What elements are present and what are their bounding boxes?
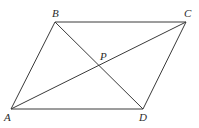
label-p: P xyxy=(99,50,107,62)
label-c: C xyxy=(184,7,192,19)
label-d: D xyxy=(138,111,147,123)
diagonal-bd xyxy=(55,22,143,109)
side-ab xyxy=(11,22,55,109)
side-cd xyxy=(143,22,186,109)
label-a: A xyxy=(3,111,11,123)
parallelogram-diagram: A B C D P xyxy=(0,0,199,128)
labels: A B C D P xyxy=(3,7,192,123)
segments xyxy=(11,22,186,109)
label-b: B xyxy=(52,7,59,19)
